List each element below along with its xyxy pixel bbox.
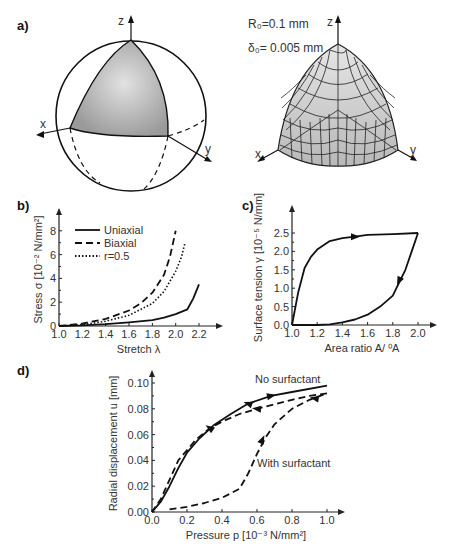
y-tick-label: 0.00 xyxy=(128,506,149,518)
stress-stretch-chart: 1.01.21.41.61.82.02.202468Stretch λStres… xyxy=(32,208,223,355)
x-tick-label: 1.0 xyxy=(319,514,334,526)
y-tick-label: 0.06 xyxy=(128,429,149,441)
x-tick-label: 2.0 xyxy=(410,327,425,339)
y-tick-label: 2 xyxy=(50,296,56,308)
y-tick-label: 0 xyxy=(50,320,56,332)
y-tick-label: 4 xyxy=(50,272,56,284)
panel-d-label: d) xyxy=(17,363,29,378)
y-axis-label: Stress σ [10⁻² N/mm²] xyxy=(32,215,44,323)
legend-label: r=0.5 xyxy=(104,250,129,262)
axis-z-left: z xyxy=(118,14,124,28)
x-tick-label: 0.2 xyxy=(179,514,194,526)
x-tick-label: 0.4 xyxy=(214,514,229,526)
param-thickness: δ₀= 0.005 mm xyxy=(248,41,323,55)
y-tick-label: 0.5 xyxy=(274,301,289,313)
x-tick-label: 1.6 xyxy=(360,327,375,339)
panel-b-label: b) xyxy=(17,198,29,213)
displacement-pressure-chart: 0.00.20.40.60.81.00.000.020.040.060.080.… xyxy=(107,370,345,541)
y-tick-label: 0.02 xyxy=(128,480,149,492)
x-tick-label: 2.0 xyxy=(168,328,183,340)
x-axis-label: Area ratio A/ ⁰A xyxy=(325,342,401,354)
y-tick-label: 0.04 xyxy=(128,454,149,466)
x-tick-label: 0.6 xyxy=(249,514,264,526)
axis-y-right: y xyxy=(410,143,416,157)
x-axis-label: Pressure p [10⁻³ N/mm²] xyxy=(186,529,306,541)
x-tick-label: 1.2 xyxy=(310,327,325,339)
annotation-no-surfactant: No surfactant xyxy=(255,373,320,385)
y-tick-label: 0.10 xyxy=(128,377,149,389)
y-tick-label: 2.5 xyxy=(274,227,289,239)
axis-x-left: x xyxy=(40,117,46,131)
surface-tension-chart: 1.01.21.41.61.82.00.00.51.01.52.02.5Area… xyxy=(252,193,437,354)
series-line xyxy=(59,284,199,326)
x-tick-label: 1.8 xyxy=(385,327,400,339)
series-line xyxy=(152,393,327,512)
x-tick-label: 2.2 xyxy=(191,328,206,340)
axis-z-right: z xyxy=(327,15,333,29)
y-tick-label: 0.0 xyxy=(274,319,289,331)
y-tick-label: 8 xyxy=(50,225,56,237)
y-tick-label: 6 xyxy=(50,249,56,261)
axis-x-right: x xyxy=(255,147,261,161)
panel-a-label: a) xyxy=(17,18,29,33)
param-radius: R₀=0.1 mm xyxy=(248,17,309,31)
y-axis-label: Surface tension γ [10⁻⁵ N/mm] xyxy=(252,193,264,342)
y-tick-label: 2.0 xyxy=(274,245,289,257)
legend-label: Uniaxial xyxy=(104,224,143,236)
sphere-diagram: z x y xyxy=(36,14,212,191)
x-tick-label: 1.6 xyxy=(121,328,136,340)
axis-y-left: y xyxy=(205,142,211,156)
x-tick-label: 0.8 xyxy=(284,514,299,526)
figure: a) z x y R₀=0.1 mm δ₀= 0.005 mm xyxy=(0,0,452,552)
annotation-with-surfactant: With surfactant xyxy=(257,457,330,469)
x-tick-label: 1.4 xyxy=(335,327,350,339)
x-tick-label: 1.8 xyxy=(145,328,160,340)
direction-arrow-icon xyxy=(351,233,360,240)
mesh-diagram: z x y xyxy=(255,15,417,166)
x-axis-label: Stretch λ xyxy=(117,343,161,355)
y-tick-label: 1.0 xyxy=(274,282,289,294)
x-tick-label: 1.4 xyxy=(98,328,113,340)
y-tick-label: 1.5 xyxy=(274,264,289,276)
direction-arrow-icon xyxy=(252,405,262,413)
x-tick-label: 1.2 xyxy=(75,328,90,340)
y-axis-label: Radial displacement u [mm] xyxy=(107,376,119,512)
legend-label: Biaxial xyxy=(104,237,136,249)
y-tick-label: 0.08 xyxy=(128,403,149,415)
direction-arrow-icon xyxy=(204,422,215,433)
